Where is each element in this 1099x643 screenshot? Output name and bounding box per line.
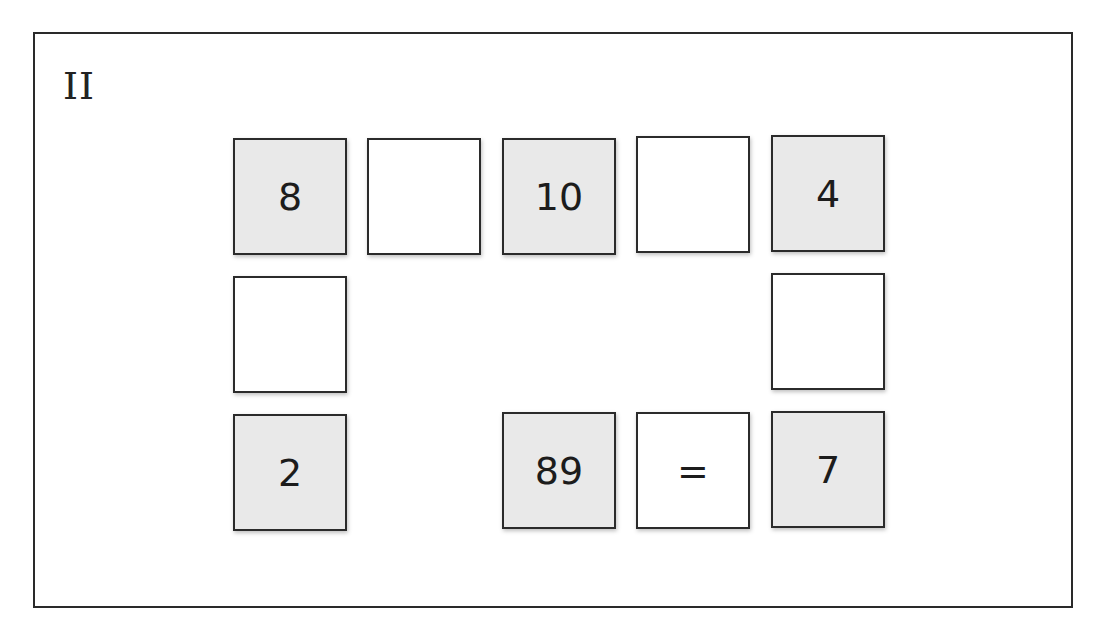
cell-r1-c0-blank[interactable] <box>233 276 347 393</box>
cell-r2-c0-number: 2 <box>233 414 347 531</box>
cell-r1-c4-blank[interactable] <box>771 273 885 390</box>
cell-r2-c3-equals: = <box>636 412 750 529</box>
cell-r2-c4-number: 7 <box>771 411 885 528</box>
cell-r2-c2-number: 89 <box>502 412 616 529</box>
cell-r0-c1-blank[interactable] <box>367 138 481 255</box>
cell-r0-c4-number: 4 <box>771 135 885 252</box>
cell-r0-c3-blank[interactable] <box>636 136 750 253</box>
cell-r0-c2-number: 10 <box>502 138 616 255</box>
cell-r0-c0-number: 8 <box>233 138 347 255</box>
puzzle-label: II <box>63 66 95 106</box>
